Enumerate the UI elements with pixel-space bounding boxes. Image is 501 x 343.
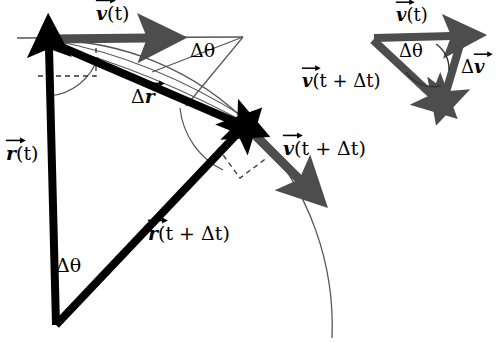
velocity-vector-v-t <box>52 38 148 39</box>
label-r-t: r (t) <box>6 144 38 163</box>
label-v-t-inset-arg: (t) <box>406 4 427 25</box>
point-p1-dot <box>43 34 53 44</box>
label-v-t-main-arg: (t) <box>107 2 129 24</box>
circular-motion-vector-diagram: v (t) Δθ Δ r v (t + Δt) <box>0 0 501 343</box>
label-delta-theta-top: Δθ <box>190 41 215 60</box>
label-delta-v-delta: Δ <box>461 56 474 77</box>
label-v-t-dt-main-arg: (t + Δt) <box>294 137 366 159</box>
label-delta-theta-inset: Δθ <box>399 42 423 60</box>
diagram-canvas <box>0 0 501 343</box>
label-v-t-main: v (t) <box>96 4 130 23</box>
label-v-t-inset-symbol: v <box>396 4 406 25</box>
inset-angle-arc-upper <box>436 44 449 70</box>
label-r-t-arg: (t) <box>16 142 38 164</box>
label-r-t-dt-symbol: r <box>148 222 158 244</box>
label-delta-v-symbol: v <box>474 56 484 77</box>
label-v-t-inset: v (t) <box>396 6 428 24</box>
label-v-t-dt-inset-arg: (t + Δt) <box>312 70 380 91</box>
label-delta-r-symbol: r <box>145 85 155 107</box>
right-angle-marker-p2 <box>218 148 268 178</box>
label-v-t-dt-inset: v (t + Δt) <box>302 72 381 90</box>
label-v-t-dt-main-symbol: v <box>283 137 294 159</box>
label-r-t-symbol: r <box>6 142 16 164</box>
label-delta-r: Δ r <box>131 87 155 106</box>
label-delta-v-inset: Δ v <box>461 58 484 76</box>
position-vector-r-t <box>49 48 56 325</box>
inset-vector-v-t <box>374 36 452 38</box>
label-v-t-dt-main: v (t + Δt) <box>283 139 366 158</box>
label-v-t-dt-inset-symbol: v <box>302 70 312 91</box>
label-v-t-main-symbol: v <box>96 2 107 24</box>
label-delta-r-delta: Δ <box>131 85 145 107</box>
label-delta-theta-bottom: Δθ <box>56 256 81 275</box>
label-r-t-dt: r (t + Δt) <box>148 224 230 243</box>
label-r-t-dt-arg: (t + Δt) <box>158 222 230 244</box>
